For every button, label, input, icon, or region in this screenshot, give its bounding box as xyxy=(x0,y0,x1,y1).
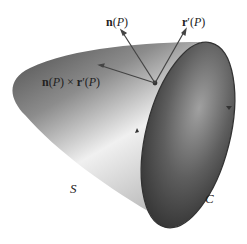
label-p: P xyxy=(117,15,124,29)
label-normal-vector: n(P) xyxy=(106,16,128,28)
label-surface-s: S xyxy=(70,182,77,195)
label-n: n xyxy=(106,15,113,29)
label-cross-product: n(P) × r′(P) xyxy=(42,76,100,88)
label-n: n xyxy=(42,75,49,89)
label-p: P xyxy=(53,75,60,89)
label-tangent-vector: r′(P) xyxy=(182,16,205,28)
label-p: P xyxy=(89,75,96,89)
label-times: × xyxy=(64,75,77,89)
label-curve-c: C xyxy=(205,192,214,205)
diagram-canvas xyxy=(0,0,247,244)
